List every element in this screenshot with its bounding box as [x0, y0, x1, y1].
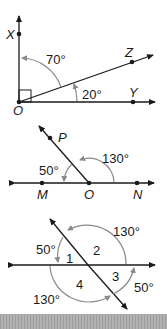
point-z: [130, 60, 135, 65]
angle-20-label: 20°: [82, 87, 102, 102]
angle-50-right-label: 50°: [134, 280, 154, 295]
transversal-line-lower: [88, 265, 127, 309]
angle-130-label: 130°: [102, 151, 129, 166]
angle-number-3: 3: [112, 269, 119, 284]
angle-70-label: 70°: [46, 52, 66, 67]
arc-top-50: [58, 237, 63, 262]
point-o2: [87, 181, 92, 186]
angle-diagrams: X Z Y O 70° 20° P M O N 50° 130° 1 2 3 4: [0, 0, 167, 329]
point-p: [48, 136, 53, 141]
label-n: N: [133, 187, 143, 202]
angle-50-label: 50°: [39, 163, 59, 178]
label-o2: O: [84, 187, 94, 202]
angle-130-top-label: 130°: [113, 224, 140, 239]
figure-3-vertical-angles: 1 2 3 4 130° 50° 50° 130°: [14, 219, 155, 309]
angle-50-left-label: 50°: [36, 242, 56, 257]
point-y: [131, 100, 136, 105]
angle-number-4: 4: [76, 277, 83, 292]
arc-20: [74, 84, 77, 101]
point-m: [40, 181, 45, 186]
point-x: [17, 32, 22, 37]
figure-1-complementary-angles: X Z Y O 70° 20°: [5, 16, 155, 118]
angle-number-2: 2: [93, 243, 100, 258]
angle-130-bottom-label: 130°: [33, 292, 60, 307]
label-y: Y: [129, 85, 139, 100]
label-p: P: [58, 130, 67, 145]
point-n: [135, 181, 140, 186]
label-z: Z: [124, 45, 134, 60]
footer-bar: [0, 314, 167, 329]
label-x: X: [5, 27, 16, 42]
label-o: O: [13, 103, 23, 118]
arc-50: [64, 164, 72, 181]
label-m: M: [37, 187, 48, 202]
figure-2-supplementary-angles: P M O N 50° 130°: [15, 126, 154, 202]
angle-number-1: 1: [66, 251, 73, 266]
